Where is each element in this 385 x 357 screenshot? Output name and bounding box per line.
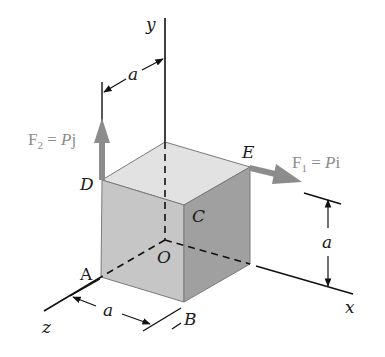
force-f2-unit-vector: j bbox=[70, 130, 76, 149]
force-f2-arrow bbox=[94, 118, 110, 180]
dim-top-arrow-right bbox=[142, 59, 163, 70]
force-f1-name: F bbox=[292, 153, 301, 172]
dim-bottom-tick-right bbox=[172, 323, 181, 329]
force-f2-label: F2 = Pj bbox=[28, 130, 76, 151]
dim-right-extension bbox=[304, 193, 341, 204]
vertex-label-a: A bbox=[79, 264, 93, 284]
force-f2-equals: = bbox=[43, 130, 61, 149]
vertex-label-e: E bbox=[241, 142, 255, 162]
force-f1-unit-vector: i bbox=[335, 153, 340, 172]
vertex-label-c: C bbox=[192, 206, 205, 226]
dim-bottom-arrow-left bbox=[73, 297, 96, 306]
x-axis-label: x bbox=[345, 297, 355, 317]
force-f2-name: F bbox=[28, 130, 37, 149]
diagram-svg: a a a y x z D E C O A B bbox=[0, 0, 385, 357]
force-f1-magnitude: P bbox=[324, 153, 335, 172]
vertex-label-d: D bbox=[79, 174, 94, 194]
dim-top-arrow-left bbox=[104, 79, 126, 92]
y-axis-label: y bbox=[145, 14, 156, 34]
dim-bottom-arrow-right bbox=[122, 314, 150, 324]
z-axis-label: z bbox=[41, 317, 52, 337]
dim-bottom-label: a bbox=[103, 300, 113, 320]
force-f1-label: F1 = Pi bbox=[292, 153, 340, 174]
vertex-label-o: O bbox=[157, 247, 171, 267]
x-axis bbox=[256, 266, 353, 294]
force-f1-equals: = bbox=[307, 153, 325, 172]
vertex-label-b: B bbox=[183, 309, 197, 329]
dim-right-label: a bbox=[322, 232, 332, 252]
force-f2-magnitude: P bbox=[60, 130, 71, 149]
dim-top-label: a bbox=[128, 64, 138, 84]
cube-force-diagram: a a a y x z D E C O A B bbox=[0, 0, 385, 357]
